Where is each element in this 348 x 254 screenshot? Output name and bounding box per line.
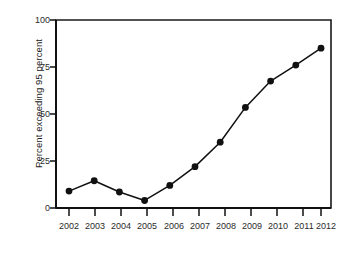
x-tick-label: 2012 [306, 222, 346, 231]
x-axis-tick-labels: 2002 2003 2004 2005 2006 2007 2008 2009 … [0, 0, 348, 254]
line-chart: Percent exceeding 95 percent 100 75 50 2… [0, 0, 348, 254]
